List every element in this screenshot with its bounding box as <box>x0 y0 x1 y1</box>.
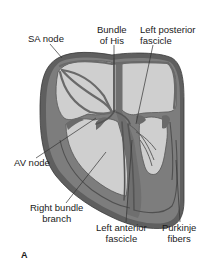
label-purkinje-fibers-line2: fibers <box>162 233 196 244</box>
label-purkinje-fibers-line1: Purkinje <box>162 222 196 233</box>
label-av-node: AV node <box>14 157 50 168</box>
label-right-bundle-branch-line2: branch <box>30 213 83 224</box>
left-atrium-chamber <box>122 62 176 115</box>
label-bundle-of-his-line2: of His <box>97 35 127 46</box>
label-left-posterior-fascicle-line1: Left posterior <box>140 24 195 35</box>
label-left-anterior-fascicle-line2: fascicle <box>96 233 147 244</box>
leader-sa-node <box>50 44 62 58</box>
label-purkinje-fibers: Purkinje fibers <box>162 222 196 244</box>
label-right-bundle-branch-line1: Right bundle <box>30 202 83 213</box>
label-bundle-of-his-line1: Bundle <box>97 24 127 35</box>
label-sa-node-text: SA node <box>28 33 64 44</box>
label-left-anterior-fascicle-line1: Left anterior <box>96 222 147 233</box>
label-left-anterior-fascicle: Left anterior fascicle <box>96 222 147 244</box>
label-left-posterior-fascicle: Left posterior fascicle <box>140 24 195 46</box>
label-bundle-of-his: Bundle of His <box>97 24 127 46</box>
panel-letter: A <box>21 250 28 260</box>
label-left-posterior-fascicle-line2: fascicle <box>140 35 195 46</box>
label-av-node-text: AV node <box>14 157 50 168</box>
label-sa-node: SA node <box>28 33 64 44</box>
label-right-bundle-branch: Right bundle branch <box>30 202 83 224</box>
